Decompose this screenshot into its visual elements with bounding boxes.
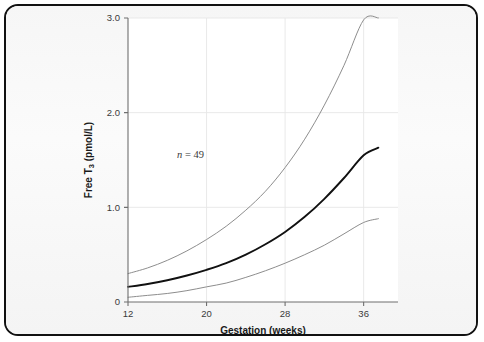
y-tick-label: 0	[115, 296, 120, 307]
y-axis-title: Free T3 (pmol/L)	[83, 122, 96, 198]
annotation-sample-size: n = 49	[177, 149, 204, 160]
figure-panel: 01.02.03.0 12202836 Gestation (weeks) Fr…	[6, 6, 476, 334]
x-tick-label: 28	[280, 308, 291, 319]
free-t3-gestation-chart: 01.02.03.0 12202836 Gestation (weeks) Fr…	[6, 6, 478, 336]
annotation-value: = 49	[182, 149, 204, 160]
y-axis-ticks: 01.02.03.0	[107, 12, 128, 307]
x-axis-title: Gestation (weeks)	[220, 325, 306, 336]
y-tick-label: 3.0	[107, 12, 120, 23]
y-axis-title-text: Free T3 (pmol/L)	[83, 122, 96, 198]
y-tick-label: 1.0	[107, 202, 120, 213]
x-axis-ticks: 12202836	[123, 302, 369, 319]
chart-annotations: n = 49	[177, 149, 204, 160]
y-axis-title-main: Free T	[83, 168, 94, 198]
x-tick-label: 36	[358, 308, 369, 319]
x-tick-label: 12	[123, 308, 134, 319]
y-tick-label: 2.0	[107, 107, 120, 118]
figure-frame: 01.02.03.0 12202836 Gestation (weeks) Fr…	[4, 4, 478, 336]
y-axis-title-units: (pmol/L)	[83, 122, 94, 164]
x-tick-label: 20	[201, 308, 212, 319]
